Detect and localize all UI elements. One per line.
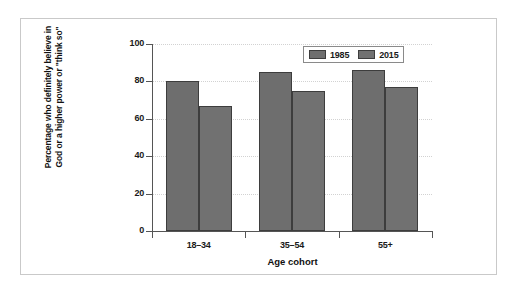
y-tick-label-row: 0 (112, 225, 144, 236)
bar-2015-55+[interactable] (385, 87, 418, 231)
x-tick-mark (432, 232, 433, 238)
y-tick-label: 100 (118, 38, 144, 48)
x-tick-mark (245, 232, 246, 238)
y-axis-title-line2: God or a higher power or "think so" (54, 26, 64, 167)
x-tick-label-18–34: 18–34 (152, 240, 245, 250)
y-axis-line (152, 44, 153, 232)
legend-label-2015: 2015 (379, 50, 398, 60)
y-tick-label-row: 20 (112, 188, 144, 199)
bar-2015-18–34[interactable] (199, 106, 232, 231)
y-tick-label-row: 60 (112, 113, 144, 124)
x-tick-mark (339, 232, 340, 238)
legend-swatch-2015 (358, 50, 375, 59)
y-tick-label: 40 (118, 150, 144, 160)
legend-label-1985: 1985 (330, 50, 349, 60)
y-axis-title: Percentage who definitely believe in God… (43, 2, 65, 192)
bar-1985-35–54[interactable] (259, 72, 292, 231)
bar-1985-55+[interactable] (352, 70, 385, 231)
x-tick-label-35–54: 35–54 (245, 240, 338, 250)
y-tick-label: 80 (118, 75, 144, 85)
x-tick-mark (152, 232, 153, 238)
y-tick-label-row: 40 (112, 150, 144, 161)
legend-swatch-1985 (309, 50, 326, 59)
y-tick-label: 0 (118, 225, 144, 235)
y-tick-label-row: 80 (112, 75, 144, 86)
x-axis-title: Age cohort (152, 256, 433, 267)
y-tick-label: 60 (118, 113, 144, 123)
bar-1985-18–34[interactable] (166, 81, 199, 231)
legend-item-1985[interactable]: 1985 (309, 50, 349, 60)
bar-2015-35–54[interactable] (292, 91, 325, 231)
y-axis-title-line1: Percentage who definitely believe in (43, 26, 53, 168)
chart-legend: 1985 2015 (303, 46, 404, 63)
y-tick-label: 20 (118, 188, 144, 198)
x-axis-line (152, 231, 433, 232)
y-tick-label-row: 100 (112, 38, 144, 49)
legend-item-2015[interactable]: 2015 (358, 50, 398, 60)
x-tick-label-55+: 55+ (339, 240, 432, 250)
